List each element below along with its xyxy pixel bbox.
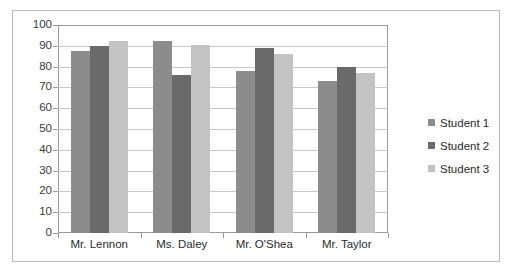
legend-swatch-icon	[428, 165, 435, 172]
bar[interactable]	[236, 71, 255, 233]
chart-frame: 0102030405060708090100 Mr. LennonMs. Dal…	[12, 10, 500, 262]
y-axis-tick-label: 0	[18, 227, 52, 238]
bar[interactable]	[71, 51, 90, 233]
bar[interactable]	[172, 75, 191, 233]
plot-wrapper: 0102030405060708090100	[58, 25, 388, 233]
y-axis-tick-label: 80	[18, 61, 52, 72]
y-axis-tick-label: 40	[18, 144, 52, 155]
x-axis-label: Mr. Lennon	[58, 238, 141, 250]
y-axis-tick-label: 60	[18, 102, 52, 113]
legend-item[interactable]: Student 3	[428, 157, 511, 180]
x-axis-tick-mark	[388, 233, 389, 238]
bar[interactable]	[356, 73, 375, 233]
bar[interactable]	[90, 46, 109, 233]
legend-label: Student 1	[440, 117, 489, 129]
bar-group	[318, 25, 375, 233]
bar-group	[236, 25, 293, 233]
y-axis-tick-label: 70	[18, 81, 52, 92]
y-axis-tick-label: 20	[18, 185, 52, 196]
legend-label: Student 3	[440, 163, 489, 175]
legend-swatch-icon	[428, 119, 435, 126]
bar[interactable]	[318, 81, 337, 233]
legend-item[interactable]: Student 1	[428, 111, 511, 134]
y-axis-tick-label: 10	[18, 206, 52, 217]
y-axis-tick-label: 50	[18, 123, 52, 134]
bar-group	[153, 25, 210, 233]
bar[interactable]	[153, 41, 172, 233]
bar[interactable]	[191, 45, 210, 233]
y-axis-tick-label: 30	[18, 165, 52, 176]
chart-legend: Student 1Student 2Student 3	[428, 111, 511, 180]
legend-swatch-icon	[428, 142, 435, 149]
bar[interactable]	[109, 41, 128, 233]
x-axis-label: Mr. O'Shea	[223, 238, 306, 250]
y-axis-tick-label: 100	[18, 19, 52, 30]
y-axis-tick-label: 90	[18, 40, 52, 51]
bar[interactable]	[274, 54, 293, 233]
bar[interactable]	[337, 67, 356, 233]
legend-label: Student 2	[440, 140, 489, 152]
bar-group	[71, 25, 128, 233]
bar[interactable]	[255, 48, 274, 233]
x-axis-label: Ms. Daley	[141, 238, 224, 250]
bar-series-layer	[58, 25, 388, 233]
x-axis-label: Mr. Taylor	[306, 238, 389, 250]
legend-item[interactable]: Student 2	[428, 134, 511, 157]
